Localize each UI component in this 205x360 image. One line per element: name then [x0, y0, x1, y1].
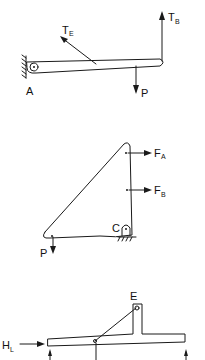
label-te: T	[62, 24, 69, 36]
reaction-right-arrow-icon	[184, 349, 188, 360]
label-support-c: C	[112, 222, 120, 234]
figure-3-tbar-diagram: E H L	[2, 290, 188, 360]
figure-2-triangle-diagram: F A F B C P	[40, 143, 166, 259]
label-fa: F	[154, 147, 161, 159]
force-b-arrow-icon	[129, 187, 152, 193]
label-fb-sub: B	[161, 191, 166, 198]
t-bar	[48, 304, 185, 346]
label-te-sub: E	[69, 30, 74, 37]
statics-diagrams: A T E T B P	[0, 0, 205, 360]
label-tb: T	[168, 11, 175, 23]
wall-support-icon	[22, 55, 26, 78]
label-load-p: P	[40, 247, 47, 259]
reaction-left-arrow-icon	[48, 349, 52, 360]
load-p-arrow-icon	[50, 237, 56, 254]
tension-e-arrow-icon	[60, 36, 96, 64]
label-fb: F	[154, 184, 161, 196]
label-hl: H	[2, 339, 10, 351]
label-fa-sub: A	[161, 153, 166, 160]
pin-support-c-icon	[118, 225, 136, 241]
beam	[27, 59, 163, 73]
cable	[95, 308, 136, 341]
force-hl-arrow-icon	[20, 341, 45, 347]
label-support-a: A	[26, 85, 34, 97]
load-p-arrow-icon	[133, 66, 139, 94]
label-hl-sub: L	[10, 346, 14, 353]
tension-b-arrow-icon	[159, 11, 165, 61]
label-tb-sub: B	[175, 18, 180, 25]
label-load-p: P	[141, 87, 148, 99]
figure-1-beam-diagram: A T E T B P	[22, 11, 180, 99]
label-point-e: E	[130, 290, 137, 302]
force-a-arrow-icon	[128, 150, 152, 156]
